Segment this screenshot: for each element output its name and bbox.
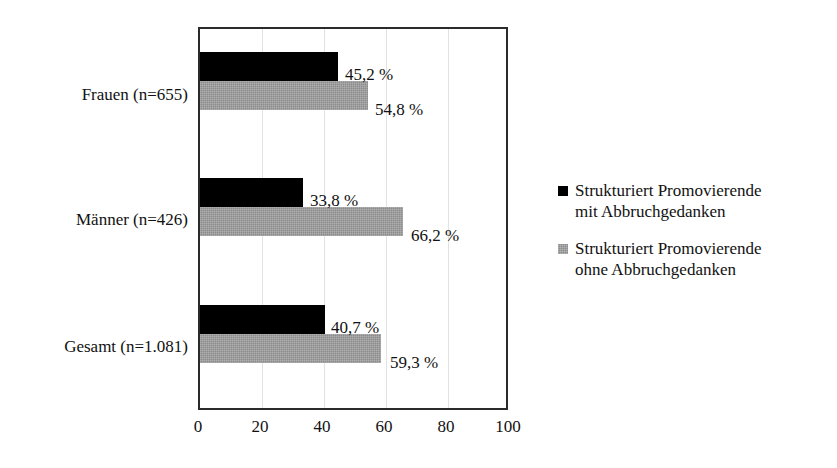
xtick-label-80: 80 bbox=[416, 417, 476, 437]
category-label-frauen: Frauen (n=655) bbox=[0, 85, 188, 105]
legend-label-ohne-line1: Strukturiert Promovierende bbox=[575, 239, 762, 258]
bar-maenner-mit-abbruchgedanken bbox=[200, 178, 303, 207]
value-label-maenner-mit: 33,8 % bbox=[310, 192, 358, 209]
category-axis-labels: Frauen (n=655) Männer (n=426) Gesamt (n=… bbox=[0, 0, 188, 468]
black-square-marker-icon bbox=[558, 186, 568, 196]
bar-frauen-mit-abbruchgedanken bbox=[200, 52, 338, 81]
legend-label-mit-line2: mit Abbruchgedanken bbox=[575, 201, 762, 222]
bar-frauen-ohne-abbruchgedanken bbox=[200, 81, 368, 110]
xtick-label-40: 40 bbox=[292, 417, 352, 437]
xtick-label-20: 20 bbox=[230, 417, 290, 437]
xtick-label-100: 100 bbox=[478, 417, 538, 437]
bar-gesamt-mit-abbruchgedanken bbox=[200, 305, 325, 334]
category-label-gesamt: Gesamt (n=1.081) bbox=[0, 337, 188, 357]
xtick-label-0: 0 bbox=[168, 417, 228, 437]
chart-legend: Strukturiert Promovierende mit Abbruchge… bbox=[558, 180, 830, 296]
value-label-frauen-mit: 45,2 % bbox=[345, 66, 393, 83]
bar-gesamt-ohne-abbruchgedanken bbox=[200, 334, 381, 363]
value-label-gesamt-ohne: 59,3 % bbox=[390, 354, 438, 371]
value-label-maenner-ohne: 66,2 % bbox=[411, 227, 459, 244]
bar-chart-figure: Frauen (n=655) Männer (n=426) Gesamt (n=… bbox=[0, 0, 837, 468]
bar-maenner-ohne-abbruchgedanken bbox=[200, 207, 403, 236]
legend-label-ohne-line2: ohne Abbruchgedanken bbox=[575, 259, 762, 280]
gray-square-marker-icon bbox=[558, 244, 568, 254]
legend-entry-mit-abbruchgedanken: Strukturiert Promovierende mit Abbruchge… bbox=[558, 180, 830, 222]
gridline-80 bbox=[448, 29, 449, 408]
value-label-frauen-ohne: 54,8 % bbox=[375, 101, 423, 118]
category-label-maenner: Männer (n=426) bbox=[0, 210, 188, 230]
legend-entry-ohne-abbruchgedanken: Strukturiert Promovierende ohne Abbruchg… bbox=[558, 238, 830, 280]
xtick-label-60: 60 bbox=[354, 417, 414, 437]
value-label-gesamt-mit: 40,7 % bbox=[331, 319, 379, 336]
legend-label-mit-line1: Strukturiert Promovierende bbox=[575, 181, 762, 200]
plot-area bbox=[198, 27, 508, 410]
